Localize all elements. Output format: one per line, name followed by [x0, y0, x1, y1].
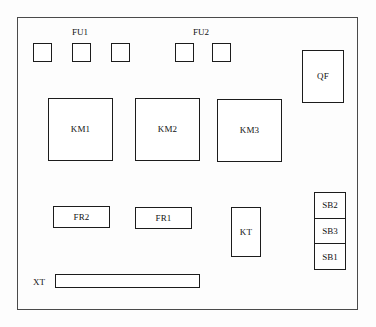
pushbutton-sb2[interactable]: SB2: [315, 193, 345, 219]
terminal-block-label: XT: [33, 278, 45, 287]
fuse-group-label-fu1: FU1: [72, 28, 88, 37]
fuse-5[interactable]: [212, 43, 231, 62]
thermal-relay-fr2[interactable]: FR2: [53, 206, 110, 228]
contactor-km2[interactable]: KM2: [135, 98, 200, 161]
fuse-2[interactable]: [72, 43, 91, 62]
fuse-1[interactable]: [33, 43, 52, 62]
control-panel-layout-diagram: FU1 FU2 QF KM1 KM2 KM3 FR2 FR1 KT SB2 SB…: [0, 0, 376, 327]
time-relay-kt[interactable]: KT: [231, 207, 261, 257]
fuse-group-label-fu2: FU2: [193, 28, 209, 37]
fuse-4[interactable]: [175, 43, 194, 62]
pushbutton-sb3[interactable]: SB3: [315, 219, 345, 245]
contactor-km3[interactable]: KM3: [217, 99, 282, 162]
terminal-block-strip[interactable]: [55, 274, 200, 288]
pushbutton-sb1[interactable]: SB1: [315, 244, 345, 269]
contactor-km1[interactable]: KM1: [48, 98, 113, 161]
thermal-relay-fr1[interactable]: FR1: [135, 207, 192, 229]
circuit-breaker-qf[interactable]: QF: [302, 50, 344, 103]
pushbutton-stack: SB2 SB3 SB1: [314, 192, 346, 270]
fuse-3[interactable]: [111, 43, 130, 62]
